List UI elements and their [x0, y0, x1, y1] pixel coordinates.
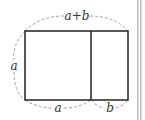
label-left: a	[10, 59, 17, 73]
label-top: a+b	[65, 9, 90, 23]
right-margin-bar-2	[140, 0, 142, 120]
label-bottom-right: b	[106, 101, 114, 115]
right-margin-bar-1	[137, 0, 139, 120]
diagram-canvas: a+b a a b	[0, 0, 145, 120]
label-bottom-left: a	[54, 101, 61, 115]
outer-rectangle	[25, 31, 128, 100]
